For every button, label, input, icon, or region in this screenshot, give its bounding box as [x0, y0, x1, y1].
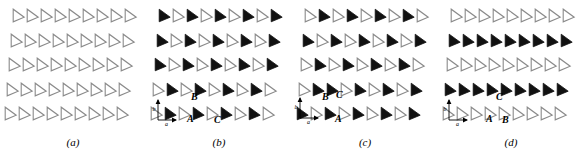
triangle-outlined — [416, 8, 429, 23]
triangle-outlined — [368, 82, 381, 97]
triangle-filled — [358, 33, 371, 48]
triangle-filled — [410, 82, 423, 97]
lattice-axes-marker: ba — [294, 94, 324, 124]
triangle-outlined — [80, 33, 93, 48]
triangle-filled — [354, 82, 367, 97]
triangle-outlined — [76, 82, 89, 97]
triangle-filled — [342, 57, 355, 72]
triangle-outlined — [460, 57, 473, 72]
triangle-filled — [242, 8, 255, 23]
triangle-outlined — [170, 33, 183, 48]
triangle-outlined — [394, 106, 407, 121]
triangle-filled — [556, 82, 569, 97]
triangle-outlined — [328, 57, 341, 72]
point-label-c: C — [214, 115, 221, 125]
svg-text:a: a — [307, 119, 310, 125]
triangle-filled — [238, 57, 251, 72]
triangle-filled — [408, 106, 421, 121]
triangle-filled — [248, 106, 261, 121]
triangle-outlined — [360, 8, 373, 23]
triangle-filled — [266, 57, 279, 72]
triangle-filled — [504, 33, 517, 48]
triangle-outlined — [446, 57, 459, 72]
triangle-filled — [222, 82, 235, 97]
triangle-outlined — [60, 106, 73, 121]
triangle-outlined — [104, 82, 117, 97]
triangle-outlined — [226, 33, 239, 48]
triangle-outlined — [74, 106, 87, 121]
triangle-outlined — [8, 57, 21, 72]
triangle-filled — [542, 82, 555, 97]
lattice-axes-marker: ba — [443, 96, 473, 126]
triangle-outlined — [372, 33, 385, 48]
triangle-filled — [250, 82, 263, 97]
triangle-outlined — [88, 106, 101, 121]
triangle-filled — [318, 8, 331, 23]
triangle-outlined — [544, 57, 557, 72]
triangle-outlined — [6, 82, 19, 97]
triangle-outlined — [208, 82, 221, 97]
triangle-outlined — [254, 33, 267, 48]
triangle-outlined — [90, 82, 103, 97]
triangle-outlined — [506, 8, 519, 23]
triangle-outlined — [228, 8, 241, 23]
triangle-outlined — [120, 57, 133, 72]
triangle-outlined — [530, 57, 543, 72]
triangle-outlined — [526, 106, 539, 121]
triangle-filled — [546, 33, 559, 48]
triangle-filled — [158, 8, 171, 23]
panel-b: baABC(b) — [146, 0, 292, 150]
triangle-outlined — [450, 8, 463, 23]
triangle-outlined — [64, 57, 77, 72]
panel-caption-d: (d) — [438, 136, 584, 148]
triangle-outlined — [48, 82, 61, 97]
triangle-outlined — [562, 8, 575, 23]
triangle-outlined — [96, 8, 109, 23]
triangle-filled — [386, 33, 399, 48]
triangle-outlined — [300, 57, 313, 72]
svg-text:b: b — [444, 106, 447, 112]
triangle-outlined — [20, 82, 33, 97]
triangle-outlined — [540, 106, 553, 121]
triangle-outlined — [224, 57, 237, 72]
point-label-a: A — [187, 114, 194, 124]
triangle-outlined — [400, 33, 413, 48]
triangle-filled — [448, 33, 461, 48]
triangle-outlined — [488, 57, 501, 72]
triangle-outlined — [108, 33, 121, 48]
triangle-filled — [330, 33, 343, 48]
triangle-outlined — [118, 82, 131, 97]
triangle-outlined — [52, 33, 65, 48]
triangle-outlined — [34, 82, 47, 97]
svg-text:a: a — [456, 121, 459, 127]
triangle-outlined — [110, 8, 123, 23]
triangle-filled — [314, 57, 327, 72]
triangle-filled — [214, 8, 227, 23]
triangle-filled — [560, 33, 573, 48]
triangle-filled — [166, 82, 179, 97]
triangle-outlined — [474, 57, 487, 72]
triangle-outlined — [198, 33, 211, 48]
triangle-outlined — [264, 82, 277, 97]
triangle-outlined — [122, 33, 135, 48]
triangle-outlined — [502, 57, 515, 72]
triangle-outlined — [168, 57, 181, 72]
triangle-outlined — [236, 82, 249, 97]
svg-text:b: b — [295, 104, 298, 110]
triangle-filled — [240, 33, 253, 48]
triangle-outlined — [262, 106, 275, 121]
triangle-outlined — [68, 8, 81, 23]
triangle-outlined — [94, 33, 107, 48]
triangle-outlined — [412, 57, 425, 72]
triangle-outlined — [478, 8, 491, 23]
triangle-filled — [212, 33, 225, 48]
triangle-filled — [182, 57, 195, 72]
triangle-filled — [462, 33, 475, 48]
triangle-outlined — [26, 8, 39, 23]
triangle-outlined — [10, 33, 23, 48]
triangle-outlined — [106, 57, 119, 72]
triangle-outlined — [172, 8, 185, 23]
triangle-filled — [402, 8, 415, 23]
triangle-filled — [458, 82, 471, 97]
point-label-b: B — [502, 115, 509, 125]
